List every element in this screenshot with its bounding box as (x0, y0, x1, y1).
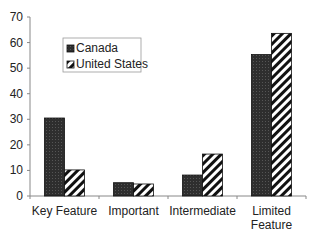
bar-united-states-intermediate (203, 154, 223, 196)
legend-swatch-canada (67, 45, 74, 52)
legend-swatch-united-states (67, 61, 74, 68)
x-category-label: Intermediate (169, 204, 236, 218)
y-tick-label: 40 (10, 87, 24, 101)
bar-united-states-limited-feature (272, 33, 292, 196)
bar-chart: 010203040506070 Key FeatureImportantInte… (0, 0, 314, 235)
y-tick-label: 20 (10, 138, 24, 152)
bar-canada-important (114, 183, 134, 196)
bar-canada-key-feature (45, 118, 65, 196)
legend-label: United States (76, 57, 148, 71)
x-category-label: Limited (252, 204, 291, 218)
bar-united-states-key-feature (65, 170, 85, 196)
bar-united-states-important (134, 184, 154, 196)
legend-label: Canada (76, 41, 118, 55)
bar-canada-limited-feature (252, 55, 272, 196)
x-category-label: Important (108, 204, 159, 218)
y-tick-label: 30 (10, 112, 24, 126)
y-tick-label: 60 (10, 36, 24, 50)
legend: CanadaUnited States (63, 38, 148, 72)
x-axis-labels: Key FeatureImportantIntermediateLimitedF… (32, 204, 293, 232)
x-category-label: Feature (251, 218, 293, 232)
bar-canada-intermediate (183, 175, 203, 196)
y-tick-label: 10 (10, 163, 24, 177)
y-tick-label: 50 (10, 61, 24, 75)
y-tick-label: 70 (10, 10, 24, 24)
x-category-label: Key Feature (32, 204, 98, 218)
y-tick-label: 0 (16, 189, 23, 203)
